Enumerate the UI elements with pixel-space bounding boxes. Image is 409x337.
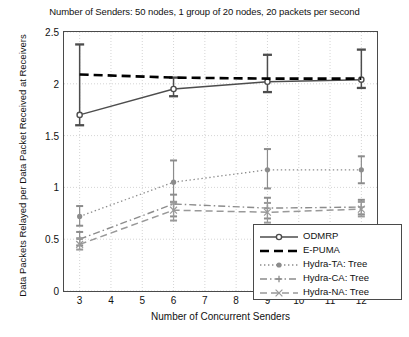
- x-tick-label: 4: [96, 295, 126, 306]
- x-tick-label: 7: [190, 295, 220, 306]
- legend-item[interactable]: Hydra-CA: Tree: [254, 270, 401, 284]
- legend-label: Hydra-TA: Tree: [300, 258, 367, 269]
- legend-label: Hydra-NA: Tree: [300, 286, 369, 297]
- x-tick-label: 8: [221, 295, 251, 306]
- legend-item[interactable]: E-PUMA: [254, 242, 401, 256]
- legend-item[interactable]: Hydra-TA: Tree: [254, 256, 401, 270]
- legend-label: ODMRP: [300, 230, 338, 241]
- series-e-puma: [80, 74, 362, 78]
- legend-swatch: [258, 285, 300, 297]
- legend: ODMRPE-PUMAHydra-TA: TreeHydra-CA: TreeH…: [253, 224, 402, 300]
- y-tick-label: 1: [19, 182, 59, 193]
- series-odmrp: [75, 44, 366, 125]
- legend-swatch: [258, 243, 300, 255]
- y-tick-label: 0.5: [19, 234, 59, 245]
- chart-title: Number of Senders: 50 nodes, 1 group of …: [0, 6, 409, 17]
- y-axis-ticks: 00.511.522.5: [14, 31, 59, 292]
- x-tick-label: 5: [127, 295, 157, 306]
- legend-label: E-PUMA: [300, 244, 340, 255]
- x-tick-label: 6: [159, 295, 189, 306]
- legend-item[interactable]: ODMRP: [254, 228, 401, 242]
- y-tick-label: 2.5: [19, 27, 59, 38]
- y-tick-label: 2: [19, 78, 59, 89]
- legend-swatch: [258, 229, 300, 241]
- legend-label: Hydra-CA: Tree: [300, 272, 369, 283]
- legend-swatch: [258, 271, 300, 283]
- y-tick-label: 1.5: [19, 130, 59, 141]
- figure: Number of Senders: 50 nodes, 1 group of …: [0, 0, 409, 337]
- legend-swatch: [258, 257, 300, 269]
- x-axis-label: Number of Concurrent Senders: [63, 311, 378, 322]
- y-tick-label: 0: [19, 286, 59, 297]
- x-tick-label: 3: [65, 295, 95, 306]
- legend-item[interactable]: Hydra-NA: Tree: [254, 284, 401, 298]
